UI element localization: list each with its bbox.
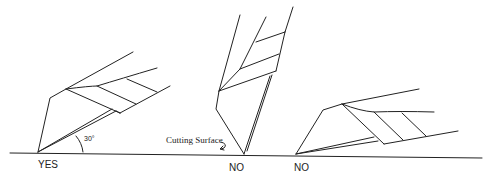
knife-yes bbox=[38, 52, 170, 152]
yes-label: YES bbox=[38, 159, 58, 170]
knife-angle-diagram: 30° YES Cutting Surface NO NO bbox=[0, 0, 499, 188]
no-steep-label: NO bbox=[229, 162, 244, 173]
cutting-surface-line bbox=[10, 153, 482, 158]
cutting-surface-label: Cutting Surface bbox=[166, 135, 223, 145]
angle-label: 30° bbox=[84, 135, 95, 142]
no-shallow-label: NO bbox=[294, 162, 309, 173]
knife-no-shallow bbox=[296, 89, 458, 154]
knife-no-steep bbox=[216, 7, 293, 154]
